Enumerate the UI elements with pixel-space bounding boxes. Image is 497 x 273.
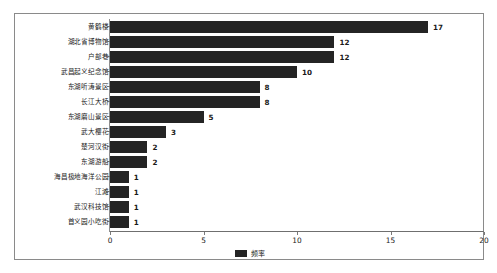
bar-row: 湖北省博物馆12 xyxy=(15,35,485,49)
category-label: 武大樱花 xyxy=(23,128,109,136)
x-tick-label: 15 xyxy=(386,236,395,245)
bar-row: 武大樱花3 xyxy=(15,125,485,139)
bar-value-label: 17 xyxy=(433,23,443,32)
bar-value-label: 3 xyxy=(171,128,176,137)
bar xyxy=(110,81,260,93)
bar-row: 黄鹤楼17 xyxy=(15,20,485,34)
bar-value-label: 2 xyxy=(152,158,157,167)
bar-value-label: 1 xyxy=(134,218,139,227)
bar-row: 江滩1 xyxy=(15,185,485,199)
x-tick-mark xyxy=(484,232,485,235)
category-label: 长江大桥 xyxy=(23,98,109,106)
category-label: 湖北省博物馆 xyxy=(23,38,109,46)
bar-value-label: 1 xyxy=(134,203,139,212)
bar-value-label: 12 xyxy=(339,53,349,62)
category-label: 东湖游船 xyxy=(23,158,109,166)
bar-value-label: 5 xyxy=(209,113,214,122)
x-tick-label: 5 xyxy=(201,236,206,245)
category-label: 东湖磨山景区 xyxy=(23,113,109,121)
bar-value-label: 8 xyxy=(265,83,270,92)
category-label: 楚河汉街 xyxy=(23,143,109,151)
bar xyxy=(110,201,129,213)
bar-row: 武昌起义纪念馆10 xyxy=(15,65,485,79)
category-label: 首义园小吃街 xyxy=(23,218,109,226)
bar-row: 武汉科技馆1 xyxy=(15,200,485,214)
chart-frame: 黄鹤楼17湖北省博物馆12户部巷12武昌起义纪念馆10东湖听涛景区8长江大桥8东… xyxy=(14,13,484,260)
bar xyxy=(110,51,334,63)
bar xyxy=(110,111,204,123)
bar-row: 长江大桥8 xyxy=(15,95,485,109)
bar xyxy=(110,21,428,33)
x-tick-mark xyxy=(110,232,111,235)
bar-value-label: 8 xyxy=(265,98,270,107)
bar-row: 首义园小吃街1 xyxy=(15,215,485,229)
category-label: 武汉科技馆 xyxy=(23,203,109,211)
category-label: 黄鹤楼 xyxy=(23,23,109,31)
bar-value-label: 1 xyxy=(134,188,139,197)
bar-row: 东湖听涛景区8 xyxy=(15,80,485,94)
bar xyxy=(110,186,129,198)
category-label: 海昌极地海洋公园 xyxy=(23,173,109,181)
bar-value-label: 12 xyxy=(339,38,349,47)
category-label: 武昌起义纪念馆 xyxy=(23,68,109,76)
x-tick-label: 0 xyxy=(108,236,113,245)
bar xyxy=(110,156,147,168)
legend-swatch-frequency xyxy=(235,250,247,257)
bar xyxy=(110,216,129,228)
bar xyxy=(110,36,334,48)
bar xyxy=(110,126,166,138)
bar-row: 海昌极地海洋公园1 xyxy=(15,170,485,184)
plot-area: 黄鹤楼17湖北省博物馆12户部巷12武昌起义纪念馆10东湖听涛景区8长江大桥8东… xyxy=(15,14,485,261)
category-label: 东湖听涛景区 xyxy=(23,83,109,91)
bar xyxy=(110,96,260,108)
bar-row: 楚河汉街2 xyxy=(15,140,485,154)
legend-label-frequency: 频率 xyxy=(251,248,265,258)
x-tick-mark xyxy=(204,232,205,235)
bar xyxy=(110,66,297,78)
bar-row: 户部巷12 xyxy=(15,50,485,64)
category-label: 户部巷 xyxy=(23,53,109,61)
bar xyxy=(110,171,129,183)
bar-row: 东湖游船2 xyxy=(15,155,485,169)
bar-value-label: 2 xyxy=(152,143,157,152)
bar xyxy=(110,141,147,153)
bar-value-label: 1 xyxy=(134,173,139,182)
x-tick-mark xyxy=(391,232,392,235)
chart-legend: 频率 xyxy=(15,248,485,258)
bar-row: 东湖磨山景区5 xyxy=(15,110,485,124)
x-tick-label: 10 xyxy=(292,236,301,245)
category-label: 江滩 xyxy=(23,188,109,196)
x-tick-mark xyxy=(297,232,298,235)
x-tick-label: 20 xyxy=(479,236,488,245)
bar-value-label: 10 xyxy=(302,68,312,77)
